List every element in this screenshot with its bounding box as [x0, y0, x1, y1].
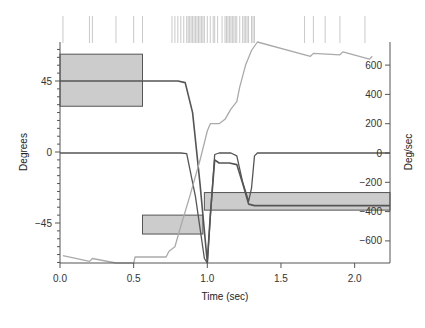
- trace-line: [60, 81, 390, 262]
- x-tick-label: 2.0: [348, 273, 362, 284]
- y-right-tick-label: 0: [376, 148, 382, 159]
- x-tick-label: 0.5: [127, 273, 141, 284]
- y-right-tick-label: −400: [359, 206, 382, 217]
- x-tick-label: 1.5: [274, 273, 288, 284]
- y-left-tick-label: 45: [41, 76, 53, 87]
- y-right-tick-label: 200: [365, 118, 382, 129]
- y-left-axis-title: Degrees: [18, 133, 29, 171]
- y-right-tick-label: 400: [365, 89, 382, 100]
- chart: 450−456004002000−200−400−6000.00.51.01.5…: [0, 0, 425, 328]
- x-tick-label: 1.0: [200, 273, 214, 284]
- x-tick-label: 0.0: [53, 273, 67, 284]
- target-box: [143, 215, 203, 234]
- y-right-tick-label: −200: [359, 177, 382, 188]
- y-right-axis-title: Deg/sec: [403, 134, 414, 171]
- x-axis-title: Time (sec): [202, 291, 249, 302]
- y-left-tick-label: 0: [46, 147, 52, 158]
- y-right-tick-label: −600: [359, 235, 382, 246]
- y-left-tick-label: −45: [35, 218, 52, 229]
- y-right-tick-label: 600: [365, 60, 382, 71]
- spike-raster: [63, 16, 365, 43]
